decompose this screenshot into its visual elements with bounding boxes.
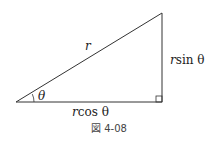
angle-arc bbox=[32, 94, 34, 102]
hypotenuse-label: r bbox=[85, 39, 92, 53]
figure-caption: 図 4-08 bbox=[91, 123, 127, 134]
angle-label: θ bbox=[38, 89, 46, 103]
triangle-diagram: r θ rcos θ rsin θ 図 4-08 bbox=[0, 0, 218, 148]
adjacent-label: rcos θ bbox=[72, 105, 109, 119]
right-angle-marker bbox=[156, 96, 162, 102]
opposite-label: rsin θ bbox=[170, 53, 205, 67]
